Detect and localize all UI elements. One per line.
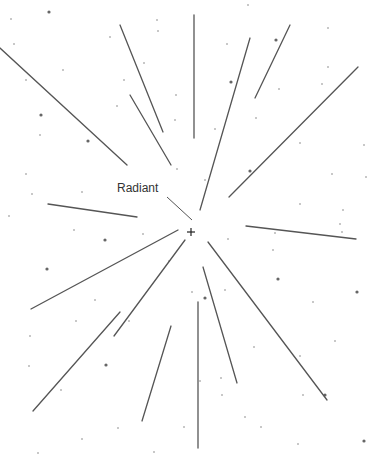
meteor-trail — [130, 95, 171, 165]
star-dot — [183, 426, 184, 427]
star-dot — [321, 83, 322, 84]
meteor-trail — [142, 326, 171, 421]
star-dot — [25, 173, 26, 174]
star-dot — [109, 36, 110, 37]
star-dot — [174, 119, 175, 120]
star-dot — [29, 335, 30, 336]
star-dot — [75, 320, 76, 321]
star-dot — [274, 38, 277, 41]
star-dot — [260, 426, 261, 427]
star-dot — [94, 299, 95, 300]
meteor-trail — [120, 25, 163, 132]
star-dot — [116, 105, 117, 106]
star-dot — [327, 27, 328, 28]
star-dot — [86, 139, 89, 142]
star-dot — [248, 169, 251, 172]
star-dot — [302, 394, 303, 395]
star-dot — [255, 117, 256, 118]
star-dot — [60, 389, 61, 390]
star-dot — [176, 168, 177, 169]
star-dot — [45, 267, 48, 270]
star-dot — [331, 173, 332, 174]
meteor-trail — [208, 242, 327, 400]
star-dot — [81, 438, 82, 439]
star-dot — [128, 320, 129, 321]
star-dot — [297, 443, 298, 444]
star-dot — [214, 128, 215, 129]
star-dot — [299, 355, 300, 356]
star-dot — [227, 238, 228, 239]
star-dot — [73, 229, 74, 230]
star-dot — [334, 340, 335, 341]
star-dot — [341, 231, 342, 232]
star-dot — [156, 19, 157, 20]
meteor-trail — [48, 204, 137, 217]
star-dot — [37, 452, 38, 453]
star-dot — [191, 291, 192, 292]
meteor-trail — [33, 312, 120, 411]
star-dot — [47, 10, 50, 13]
star-dot — [81, 191, 82, 192]
star-dot — [272, 249, 273, 250]
star-dot — [175, 94, 176, 95]
star-dot — [221, 394, 222, 395]
star-dot — [157, 30, 158, 31]
star-dot — [278, 88, 279, 89]
star-dot — [299, 142, 300, 143]
star-dot — [203, 296, 206, 299]
meteor-trail — [203, 267, 237, 383]
star-dot — [28, 365, 29, 366]
star-dot — [39, 113, 42, 116]
star-dot — [220, 377, 221, 378]
star-dot — [224, 289, 225, 290]
star-dot — [355, 290, 358, 293]
star-dot — [62, 69, 63, 70]
star-field — [8, 4, 366, 453]
meteor-radiant-diagram — [0, 0, 371, 463]
star-dot — [247, 4, 248, 5]
star-dot — [117, 427, 118, 428]
star-dot — [327, 66, 328, 67]
star-dot — [365, 176, 366, 177]
star-dot — [123, 79, 124, 80]
pointer-line — [167, 197, 192, 220]
radiant-cross-icon — [187, 228, 195, 236]
meteor-trail — [246, 226, 356, 239]
star-dot — [276, 277, 279, 280]
meteor-trail — [31, 230, 178, 309]
star-dot — [229, 80, 232, 83]
star-dot — [274, 232, 275, 233]
star-dot — [25, 79, 26, 80]
star-dot — [143, 62, 144, 63]
meteor-trails — [0, 15, 358, 448]
meteor-trail — [255, 25, 290, 98]
star-dot — [199, 380, 200, 381]
star-dot — [142, 233, 143, 234]
star-dot — [8, 215, 9, 216]
star-dot — [204, 179, 205, 180]
star-dot — [253, 346, 254, 347]
meteor-trail — [0, 48, 127, 165]
meteor-trail — [229, 67, 358, 197]
star-dot — [104, 363, 107, 366]
meteor-trail — [114, 240, 185, 336]
star-dot — [10, 18, 11, 19]
star-dot — [362, 439, 365, 442]
star-dot — [363, 144, 364, 145]
star-dot — [13, 43, 14, 44]
radiant-label: Radiant — [117, 181, 158, 195]
star-dot — [226, 43, 227, 44]
star-dot — [39, 134, 40, 135]
star-dot — [244, 416, 245, 417]
star-dot — [339, 223, 340, 224]
star-dot — [153, 451, 154, 452]
star-dot — [31, 193, 32, 194]
star-dot — [342, 209, 343, 210]
radiant-label-pointer — [167, 197, 192, 220]
star-dot — [299, 203, 300, 204]
star-dot — [312, 301, 313, 302]
star-dot — [103, 238, 106, 241]
